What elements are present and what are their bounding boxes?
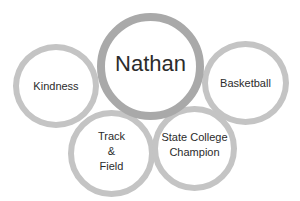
node-label: Track & Field [98, 129, 125, 174]
node-track-field: Track & Field [68, 110, 155, 197]
node-label: Kindness [33, 79, 78, 94]
node-state-college-champion: State College Champion [152, 106, 237, 191]
center-node-nathan: Nathan [97, 13, 204, 120]
node-label: State College Champion [161, 130, 227, 160]
center-label: Nathan [115, 51, 186, 77]
node-label: Basketball [220, 76, 271, 91]
node-kindness: Kindness [13, 44, 99, 128]
